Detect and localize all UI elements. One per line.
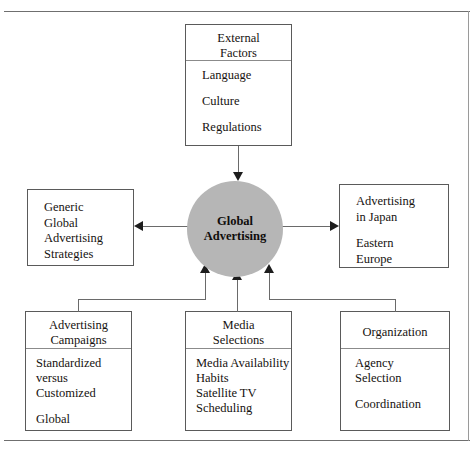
list-item: Regulations bbox=[202, 120, 291, 135]
connector-campaigns-horizontal bbox=[78, 299, 206, 300]
list-item: versus bbox=[36, 371, 131, 386]
hub-label: Global Advertising bbox=[204, 214, 267, 244]
connector-hub-to-regional-markets bbox=[282, 226, 330, 227]
list-item: Generic bbox=[44, 200, 133, 216]
list-item: Scheduling bbox=[196, 401, 291, 416]
list-item: Satellite TV bbox=[196, 386, 291, 401]
node-advertising-campaigns[interactable]: Advertising Campaigns Standardized versu… bbox=[25, 311, 132, 431]
node-organization-body: Agency Selection Coordination bbox=[341, 349, 449, 418]
page-frame-bottom-rule bbox=[4, 440, 470, 441]
node-external-factors[interactable]: External Factors Language Culture Regula… bbox=[185, 24, 292, 146]
node-organization-header: Organization bbox=[341, 312, 449, 349]
list-item: Language bbox=[202, 68, 291, 83]
node-advertising-campaigns-header: Advertising Campaigns bbox=[26, 312, 131, 349]
connector-campaigns-riser bbox=[78, 299, 79, 312]
list-item: Eastern bbox=[356, 236, 448, 252]
list-item: Culture bbox=[202, 94, 291, 109]
list-item: Media Availability bbox=[196, 356, 291, 371]
list-item: Customized bbox=[36, 386, 131, 401]
list-item: Europe bbox=[356, 252, 448, 268]
connector-media-selections-to-hub bbox=[237, 279, 238, 312]
node-external-factors-header: External Factors bbox=[186, 25, 291, 61]
node-media-selections[interactable]: Media Selections Media Availability Habi… bbox=[185, 311, 292, 431]
list-item: Agency bbox=[355, 356, 449, 371]
connector-hub-to-generic-strategies bbox=[143, 226, 189, 227]
page-frame-top-rule bbox=[4, 11, 470, 12]
diagram-canvas: External Factors Language Culture Regula… bbox=[0, 0, 475, 452]
node-generic-global-advertising-strategies[interactable]: Generic Global Advertising Strategies bbox=[27, 189, 134, 266]
arrowhead-down-to-hub bbox=[233, 172, 243, 181]
list-item: in Japan bbox=[356, 210, 448, 226]
list-item: Habits bbox=[196, 371, 291, 386]
hub-global-advertising[interactable]: Global Advertising bbox=[187, 181, 283, 277]
connector-organization-riser bbox=[395, 299, 396, 312]
list-item: Advertising bbox=[356, 194, 448, 210]
list-item: Selection bbox=[355, 371, 449, 386]
node-external-factors-body: Language Culture Regulations bbox=[186, 61, 291, 141]
page-frame-right-rule bbox=[468, 11, 469, 441]
node-regional-markets[interactable]: Advertising in Japan Eastern Europe bbox=[339, 184, 449, 268]
list-item: Strategies bbox=[44, 247, 133, 263]
arrowhead-left-to-generic-strategies bbox=[134, 221, 143, 231]
node-media-selections-header: Media Selections bbox=[186, 312, 291, 349]
connector-external-factors-to-hub bbox=[238, 146, 239, 173]
connector-organization-to-hub bbox=[269, 272, 270, 300]
arrowhead-right-to-regional-markets bbox=[330, 221, 339, 231]
node-regional-markets-body: Advertising in Japan Eastern Europe bbox=[340, 185, 448, 277]
list-item: Standardized bbox=[36, 356, 131, 371]
node-generic-strategies-body: Generic Global Advertising Strategies bbox=[28, 190, 133, 272]
node-media-selections-body: Media Availability Habits Satellite TV S… bbox=[186, 349, 291, 422]
list-item: Coordination bbox=[355, 397, 449, 412]
list-item: Global bbox=[36, 412, 131, 427]
connector-organization-horizontal bbox=[270, 299, 396, 300]
node-advertising-campaigns-body: Standardized versus Customized Global bbox=[26, 349, 131, 433]
list-item: Global bbox=[44, 216, 133, 232]
list-item: Advertising bbox=[44, 231, 133, 247]
node-organization[interactable]: Organization Agency Selection Coordinati… bbox=[340, 311, 450, 431]
connector-campaigns-to-hub bbox=[205, 272, 206, 300]
